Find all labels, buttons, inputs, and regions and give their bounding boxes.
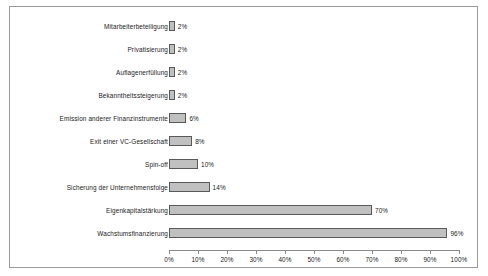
- x-axis-tick: [169, 250, 170, 254]
- bar-value-label: 14%: [213, 183, 226, 190]
- x-axis-tick-label: 60%: [336, 256, 349, 263]
- x-axis-tick: [343, 250, 344, 254]
- bar: [169, 67, 175, 77]
- category-label: Eigenkapitalstärkung: [106, 206, 168, 213]
- bar-value-label: 2%: [178, 22, 188, 29]
- bar: [169, 182, 210, 192]
- x-axis-tick-label: 100%: [451, 256, 468, 263]
- bar-row: Mitarbeiterbeteiligung2%: [10, 14, 479, 37]
- x-axis-tick: [430, 250, 431, 254]
- x-axis-tick-label: 40%: [278, 256, 291, 263]
- bar: [169, 90, 175, 100]
- bar-value-label: 2%: [178, 91, 188, 98]
- bar: [169, 44, 175, 54]
- x-axis-tick-label: 90%: [423, 256, 436, 263]
- category-label: Mitarbeiterbeteiligung: [104, 22, 168, 29]
- category-label: Spin-off: [145, 160, 168, 167]
- bar-row: Wachstumsfinanzierung96%: [10, 221, 479, 244]
- x-axis-tick-label: 10%: [191, 256, 204, 263]
- bar-row: Eigenkapitalstärkung70%: [10, 198, 479, 221]
- bar: [169, 228, 447, 238]
- bar: [169, 205, 372, 215]
- x-axis-tick-label: 70%: [365, 256, 378, 263]
- bar: [169, 113, 186, 123]
- x-axis-tick: [285, 250, 286, 254]
- bar: [169, 136, 192, 146]
- bar-value-label: 70%: [375, 206, 388, 213]
- x-axis-tick: [401, 250, 402, 254]
- bar-value-label: 2%: [178, 45, 188, 52]
- x-axis-tick: [459, 250, 460, 254]
- bar-value-label: 2%: [178, 68, 188, 75]
- bar: [169, 21, 175, 31]
- category-label: Sicherung der Unternehmensfolge: [67, 183, 168, 190]
- bar-value-label: 96%: [450, 229, 463, 236]
- category-label: Wachstumsfinanzierung: [97, 229, 168, 236]
- x-axis-tick: [314, 250, 315, 254]
- x-axis-tick-label: 50%: [307, 256, 320, 263]
- bar-value-label: 10%: [201, 160, 214, 167]
- category-label: Auflagenerfüllung: [116, 68, 168, 75]
- plot-area: Mitarbeiterbeteiligung2%Privatisierung2%…: [10, 7, 479, 269]
- bar-row: Emission anderer Finanzinstrumente6%: [10, 106, 479, 129]
- category-label: Privatisierung: [127, 45, 168, 52]
- category-label: Exit einer VC-Gesellschaft: [90, 137, 168, 144]
- x-axis-tick-label: 0%: [164, 256, 174, 263]
- bar-value-label: 6%: [189, 114, 199, 121]
- bar-value-label: 8%: [195, 137, 205, 144]
- bar-row: Auflagenerfüllung2%: [10, 60, 479, 83]
- bar-row: Privatisierung2%: [10, 37, 479, 60]
- x-axis-tick-label: 80%: [394, 256, 407, 263]
- category-label: Emission anderer Finanzinstrumente: [60, 114, 168, 121]
- x-axis-tick: [372, 250, 373, 254]
- x-axis-tick: [256, 250, 257, 254]
- x-axis-tick-label: 20%: [220, 256, 233, 263]
- chart-frame: Mitarbeiterbeteiligung2%Privatisierung2%…: [9, 6, 478, 268]
- bar-row: Bekanntheitssteigerung2%: [10, 83, 479, 106]
- x-axis-tick: [198, 250, 199, 254]
- bar-row: Exit einer VC-Gesellschaft8%: [10, 129, 479, 152]
- bar-row: Spin-off10%: [10, 152, 479, 175]
- category-label: Bekanntheitssteigerung: [98, 91, 168, 98]
- x-axis-tick: [227, 250, 228, 254]
- bar: [169, 159, 198, 169]
- bar-row: Sicherung der Unternehmensfolge14%: [10, 175, 479, 198]
- x-axis-tick-label: 30%: [249, 256, 262, 263]
